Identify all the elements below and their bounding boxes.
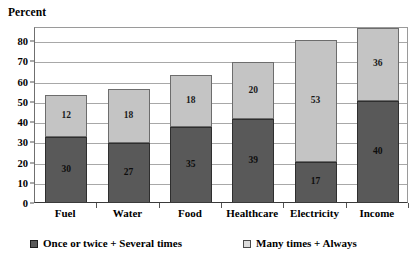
bar-healthcare[interactable]: 2039 [232, 62, 274, 202]
bar-value-label: 53 [296, 96, 336, 106]
bar-value-label: 35 [171, 160, 211, 170]
bar-value-label: 18 [171, 96, 211, 106]
gridline [35, 123, 407, 124]
gridline [35, 103, 407, 104]
legend-swatch-dark [30, 240, 38, 248]
bar-income[interactable]: 3640 [357, 28, 399, 202]
gridline [35, 42, 407, 43]
bar-segment-once-or-twice-several-times[interactable]: 30 [45, 137, 87, 202]
bar-value-label: 36 [358, 60, 398, 70]
bar-fuel[interactable]: 1230 [45, 95, 87, 202]
y-axis-tick-mark [30, 162, 34, 163]
x-axis-label-electricity: Electricity [290, 207, 339, 219]
y-axis-tick-label: 30 [2, 137, 28, 148]
x-axis-label-food: Food [178, 207, 202, 219]
x-axis-label-income: Income [359, 207, 394, 219]
bar-segment-once-or-twice-several-times[interactable]: 40 [357, 101, 399, 202]
bar-segment-many-times-always[interactable]: 36 [357, 28, 399, 101]
x-axis-label-fuel: Fuel [55, 207, 76, 219]
bar-value-label: 39 [233, 156, 273, 166]
gridline [35, 164, 407, 165]
x-axis-label-water: Water [113, 207, 142, 219]
x-axis-tick-mark [346, 203, 347, 208]
bar-value-label: 27 [109, 168, 149, 178]
stacked-bar-chart: Percent 123018271835203953173640 0102030… [0, 0, 414, 260]
y-axis-title: Percent [8, 6, 46, 18]
y-axis-tick-mark [30, 61, 34, 62]
y-axis-tick-label: 50 [2, 96, 28, 107]
y-axis-tick-mark [30, 182, 34, 183]
y-axis-tick-mark [30, 122, 34, 123]
gridline [35, 143, 407, 144]
x-axis-tick-mark [408, 203, 409, 208]
bar-segment-once-or-twice-several-times[interactable]: 35 [170, 127, 212, 202]
legend-item-2[interactable]: Many times + Always [243, 238, 357, 249]
bar-segment-many-times-always[interactable]: 18 [108, 89, 150, 144]
y-axis-tick-label: 10 [2, 177, 28, 188]
x-axis-tick-mark [96, 203, 97, 208]
plot-area: 123018271835203953173640 [34, 27, 408, 203]
bar-value-label: 12 [46, 111, 86, 121]
y-axis-tick-label: 60 [2, 76, 28, 87]
legend-label: Once or twice + Several times [43, 238, 182, 249]
bar-electricity[interactable]: 5317 [295, 40, 337, 202]
bar-value-label: 18 [109, 111, 149, 121]
x-axis-tick-mark [283, 203, 284, 208]
y-axis-tick-mark [30, 203, 34, 204]
legend-item-1[interactable]: Once or twice + Several times [30, 238, 182, 249]
x-axis-label-healthcare: Healthcare [226, 207, 278, 219]
y-axis-tick-mark [30, 41, 34, 42]
bar-segment-once-or-twice-several-times[interactable]: 17 [295, 162, 337, 202]
bar-segment-many-times-always[interactable]: 20 [232, 62, 274, 119]
gridline [35, 184, 407, 185]
y-axis-tick-mark [30, 101, 34, 102]
bar-water[interactable]: 1827 [108, 89, 150, 202]
bar-value-label: 30 [46, 165, 86, 175]
bar-value-label: 40 [358, 147, 398, 157]
y-axis-tick-label: 70 [2, 56, 28, 67]
y-axis-tick-label: 80 [2, 36, 28, 47]
y-axis-tick-label: 40 [2, 117, 28, 128]
x-axis-tick-mark [159, 203, 160, 208]
legend-swatch-light [243, 240, 251, 248]
legend-label: Many times + Always [256, 238, 357, 249]
y-axis-tick-mark [30, 142, 34, 143]
x-axis-tick-mark [221, 203, 222, 208]
y-axis-tick-label: 0 [2, 198, 28, 209]
gridline [35, 62, 407, 63]
y-axis-tick-label: 20 [2, 157, 28, 168]
bar-segment-many-times-always[interactable]: 12 [45, 95, 87, 137]
bar-food[interactable]: 1835 [170, 75, 212, 202]
bar-segment-once-or-twice-several-times[interactable]: 39 [232, 119, 274, 202]
chart-legend: Once or twice + Several timesMany times … [0, 236, 414, 256]
bar-segment-many-times-always[interactable]: 53 [295, 40, 337, 161]
bar-value-label: 17 [296, 178, 336, 188]
y-axis-tick-mark [30, 81, 34, 82]
bar-segment-many-times-always[interactable]: 18 [170, 75, 212, 128]
bar-segment-once-or-twice-several-times[interactable]: 27 [108, 143, 150, 202]
bar-value-label: 20 [233, 86, 273, 96]
gridline [35, 83, 407, 84]
